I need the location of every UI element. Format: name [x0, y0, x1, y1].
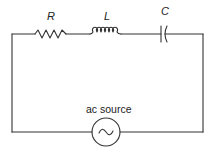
- capacitor-label: C: [161, 5, 169, 17]
- inductor-label: L: [104, 10, 110, 22]
- resistor-label: R: [47, 10, 55, 22]
- resistor-icon: [35, 30, 66, 38]
- circuit-diagram: [0, 0, 214, 154]
- sine-wave-icon: [99, 129, 113, 135]
- ac-source-label: ac source: [86, 103, 132, 115]
- inductor-icon: [90, 27, 121, 34]
